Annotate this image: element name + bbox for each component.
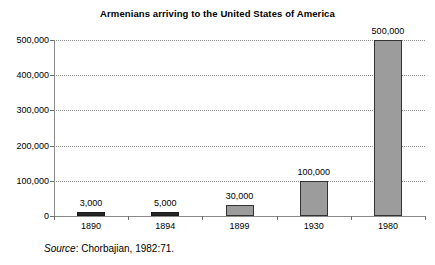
gridline: [54, 40, 425, 41]
source-label: Source: [44, 243, 76, 254]
chart-figure: Armenians arriving to the United States …: [0, 0, 435, 265]
x-axis-tick-label: 1980: [378, 221, 398, 231]
y-axis-tick-mark: [50, 110, 54, 111]
x-axis-tick-label: 1930: [304, 221, 324, 231]
gridline: [54, 146, 425, 147]
bar[interactable]: [300, 181, 328, 216]
y-axis-tick-label: 500,000: [16, 35, 49, 45]
x-axis-tick-mark: [277, 216, 278, 220]
y-axis-tick-mark: [50, 75, 54, 76]
chart-title: Armenians arriving to the United States …: [0, 8, 435, 19]
y-axis-tick-label: 400,000: [16, 70, 49, 80]
source-text: Chorbajian, 1982:71.: [81, 243, 174, 254]
plot-area: 0100,000200,000300,000400,000500,0003,00…: [54, 40, 425, 216]
y-axis-tick-label: 100,000: [16, 176, 49, 186]
bar-value-label: 500,000: [372, 26, 405, 36]
gridline: [54, 110, 425, 111]
x-axis-tick-mark: [351, 216, 352, 220]
bar-value-label: 3,000: [80, 198, 103, 208]
y-axis-tick-mark: [50, 40, 54, 41]
x-axis-tick-label: 1890: [81, 221, 101, 231]
x-axis-tick-mark: [202, 216, 203, 220]
y-axis-tick-label: 300,000: [16, 105, 49, 115]
y-axis-tick-label: 0: [44, 211, 49, 221]
y-axis-tick-mark: [50, 181, 54, 182]
y-axis-tick-mark: [50, 146, 54, 147]
x-axis-tick-mark: [128, 216, 129, 220]
x-axis-tick-label: 1894: [155, 221, 175, 231]
bar[interactable]: [77, 212, 105, 216]
bar-value-label: 100,000: [297, 167, 330, 177]
bar-value-label: 30,000: [226, 191, 254, 201]
x-axis-line: [54, 216, 425, 217]
bar[interactable]: [374, 40, 402, 216]
gridline: [54, 181, 425, 182]
gridline: [54, 75, 425, 76]
source-note: Source: Chorbajian, 1982:71.: [44, 243, 174, 254]
x-axis-tick-label: 1899: [229, 221, 249, 231]
x-axis-tick-mark: [425, 216, 426, 220]
bar[interactable]: [151, 212, 179, 216]
x-axis-tick-mark: [54, 216, 55, 220]
bar-value-label: 5,000: [154, 198, 177, 208]
bar[interactable]: [226, 205, 254, 216]
y-axis-tick-label: 200,000: [16, 141, 49, 151]
